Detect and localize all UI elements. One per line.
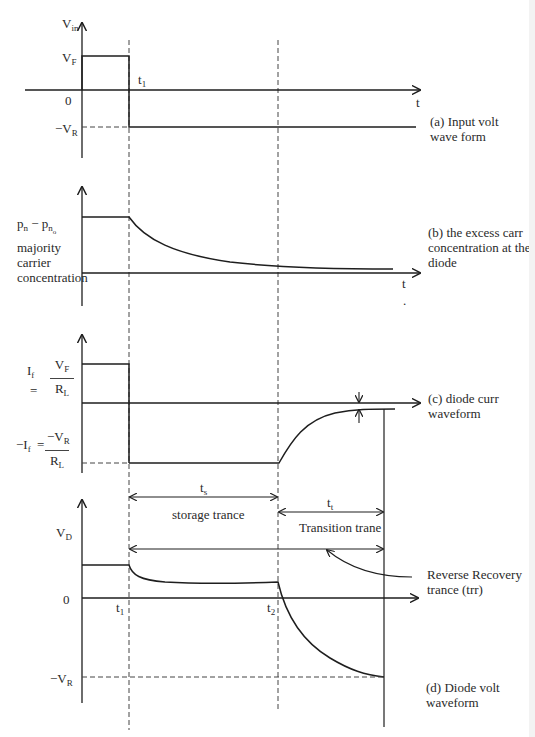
neg-vr-label-a: −VR bbox=[55, 121, 78, 141]
neg-if-fraction: −VR RL bbox=[45, 429, 69, 473]
zero-label-d: 0 bbox=[63, 592, 70, 607]
caption-a: (a) Input volt wave form bbox=[430, 114, 499, 144]
zero-label-a: 0 bbox=[65, 93, 72, 108]
stray-dot: . bbox=[403, 293, 406, 308]
t-axis-label-b: t bbox=[402, 276, 406, 291]
if-label: If = bbox=[27, 363, 37, 398]
t2-label-d: t2 bbox=[267, 600, 275, 620]
t1-label-a: t1 bbox=[138, 72, 146, 92]
storage-time-label: storage trance bbox=[172, 507, 245, 522]
recovery-current bbox=[129, 409, 395, 463]
tt-label: tt bbox=[327, 495, 333, 515]
carrier-y-label: pn − pno majority carrier concentration bbox=[17, 216, 88, 285]
neg-if-label: −If = bbox=[16, 437, 44, 457]
t-axis-label-a: t bbox=[416, 95, 420, 110]
vf-label: VF bbox=[62, 50, 76, 70]
caption-c: (c) diode curr waveform bbox=[428, 391, 499, 421]
vd-label: VD bbox=[56, 525, 72, 545]
caption-d: (d) Diode volt waveform bbox=[426, 680, 500, 710]
forward-current bbox=[82, 364, 129, 463]
neg-vr-label-d: −VR bbox=[50, 671, 73, 691]
input-waveform bbox=[82, 56, 416, 127]
vin-label: Vin bbox=[62, 16, 78, 36]
diode-switching-diagram bbox=[0, 0, 535, 737]
page-edge-shadow bbox=[529, 0, 535, 737]
panel-c-diode-current bbox=[82, 335, 420, 473]
transition-time-label: Transition trane bbox=[299, 520, 381, 535]
t1-label-d: t1 bbox=[116, 600, 124, 620]
ts-label: ts bbox=[200, 480, 207, 500]
trr-pointer-arrow bbox=[327, 550, 412, 577]
if-fraction: VF RL bbox=[50, 357, 74, 401]
trr-label: Reverse Recovery trance (trr) bbox=[427, 567, 522, 597]
diode-voltage-curve bbox=[82, 565, 384, 677]
panel-b-carrier-concentration bbox=[82, 187, 420, 306]
caption-b: (b) the excess carr concentration at the… bbox=[428, 225, 531, 270]
panel-a-input-voltage bbox=[25, 23, 420, 158]
